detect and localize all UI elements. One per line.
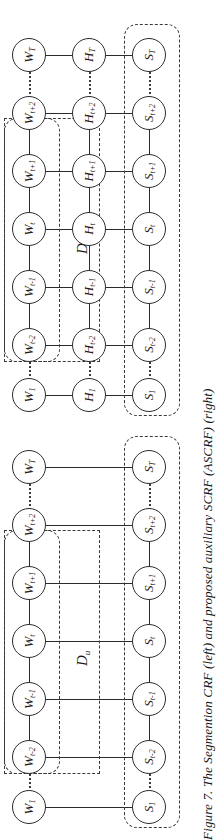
node-label-base: S <box>141 227 157 234</box>
node-label-base: S <box>141 639 157 646</box>
node-label-sub: t-1 <box>88 278 97 287</box>
node-label-base: H <box>81 225 97 234</box>
node-label-sub: t-2 <box>28 747 37 756</box>
node-h-tm2[interactable]: Ht-2 <box>72 328 106 362</box>
node-label-sub: t-2 <box>28 335 37 344</box>
node-label-base: S <box>141 758 157 765</box>
node-label-base: H <box>81 287 97 296</box>
node-label-sub: t <box>148 637 157 639</box>
node-label-base: H <box>81 172 97 181</box>
node-label-sub: t+2 <box>148 104 157 116</box>
node-label-sub: 1 <box>28 388 37 392</box>
edge-w-s-first <box>46 807 132 808</box>
diagram-scrf: Du W1 Wt-2 <box>0 432 188 832</box>
node-label-base: S <box>141 586 157 593</box>
node-label-base: W <box>21 113 37 124</box>
node-label-sub: 1 <box>148 390 157 394</box>
node-s-tp2[interactable]: St+2 <box>132 96 166 130</box>
node-h-t[interactable]: Ht <box>72 212 106 246</box>
edge-w-h-last <box>46 55 72 56</box>
node-s-tp1[interactable]: St+1 <box>132 566 166 600</box>
node-label-sub: t+2 <box>88 103 97 115</box>
node-s-last[interactable]: ST <box>132 450 166 484</box>
node-label-base: S <box>141 174 157 181</box>
node-label-sub: t-2 <box>148 337 157 346</box>
node-label-base: W <box>21 756 37 767</box>
node-s-first[interactable]: S1 <box>132 790 166 824</box>
node-label-base: S <box>141 288 157 295</box>
node-label-sub: T <box>28 47 37 51</box>
node-label-sub: t+1 <box>148 574 157 586</box>
edge-w-h-first <box>46 395 72 396</box>
node-w-tm1[interactable]: Wt-1 <box>12 682 46 716</box>
node-w-t[interactable]: Wt <box>12 212 46 246</box>
node-w-t[interactable]: Wt <box>12 624 46 658</box>
node-label-base: W <box>21 583 37 594</box>
node-w-first[interactable]: W1 <box>12 790 46 824</box>
node-label-sub: T <box>88 48 97 52</box>
node-label-base: W <box>21 464 37 475</box>
node-label-sub: t-1 <box>28 689 37 698</box>
node-h-tp2[interactable]: Ht+2 <box>72 96 106 130</box>
node-label-base: S <box>141 528 157 535</box>
node-label-base: W <box>21 392 37 403</box>
node-h-first[interactable]: H1 <box>72 378 106 412</box>
node-w-first[interactable]: W1 <box>12 378 46 412</box>
node-s-tm1[interactable]: St-1 <box>132 270 166 304</box>
node-label-sub: t-1 <box>148 691 157 700</box>
node-label-sub: T <box>148 462 157 466</box>
node-s-last[interactable]: ST <box>132 38 166 72</box>
node-label-base: H <box>81 53 97 62</box>
node-w-tp2[interactable]: Wt+2 <box>12 508 46 542</box>
node-s-tp1[interactable]: St+1 <box>132 154 166 188</box>
node-label-sub: t <box>148 225 157 227</box>
node-w-tp1[interactable]: Wt+1 <box>12 154 46 188</box>
node-label-sub: t+2 <box>28 514 37 526</box>
node-label-base: W <box>21 286 37 297</box>
node-label-base: W <box>21 52 37 63</box>
node-w-tm2[interactable]: Wt-2 <box>12 328 46 362</box>
node-w-tp1[interactable]: Wt+1 <box>12 566 46 600</box>
node-label-sub: t+2 <box>28 102 37 114</box>
node-s-t[interactable]: St <box>132 624 166 658</box>
figure-canvas: Du W1 Wt-2 <box>0 0 218 840</box>
node-label-base: H <box>81 392 97 401</box>
node-label-sub: t+1 <box>148 162 157 174</box>
node-s-tp2[interactable]: St+2 <box>132 508 166 542</box>
node-label-sub: t-1 <box>148 279 157 288</box>
node-label-sub: 1 <box>88 388 97 392</box>
node-w-tm1[interactable]: Wt-1 <box>12 270 46 304</box>
group-label-sub: u <box>82 651 92 656</box>
node-h-last[interactable]: HT <box>72 38 106 72</box>
diagram-ascrf: Du <box>0 8 188 420</box>
node-label-sub: t+1 <box>88 161 97 173</box>
group-label-base: D <box>74 655 90 666</box>
node-label-base: W <box>21 525 37 536</box>
edge-w-s-last <box>46 467 132 468</box>
node-label-base: S <box>141 394 157 401</box>
node-label-base: S <box>141 806 157 813</box>
node-label-base: W <box>21 804 37 815</box>
node-label-sub: t-1 <box>28 277 37 286</box>
group-label-du-scrf: Du <box>74 651 91 666</box>
node-label-base: S <box>141 116 157 123</box>
node-s-tm2[interactable]: St-2 <box>132 328 166 362</box>
node-label-base: W <box>21 698 37 709</box>
node-s-tm2[interactable]: St-2 <box>132 740 166 774</box>
node-w-last[interactable]: WT <box>12 38 46 72</box>
node-w-tm2[interactable]: Wt-2 <box>12 740 46 774</box>
node-label-base: W <box>21 344 37 355</box>
node-s-t[interactable]: St <box>132 212 166 246</box>
node-h-tp1[interactable]: Ht+1 <box>72 154 106 188</box>
node-s-tm1[interactable]: St-1 <box>132 682 166 716</box>
node-label-base: W <box>21 637 37 648</box>
node-label-base: W <box>21 171 37 182</box>
node-label-sub: t <box>28 222 37 224</box>
node-w-tp2[interactable]: Wt+2 <box>12 96 46 130</box>
node-w-last[interactable]: WT <box>12 450 46 484</box>
node-label-base: W <box>21 225 37 236</box>
node-h-tm1[interactable]: Ht-1 <box>72 270 106 304</box>
node-label-base: S <box>141 466 157 473</box>
node-s-first[interactable]: S1 <box>132 378 166 412</box>
node-label-sub: t <box>88 223 97 225</box>
